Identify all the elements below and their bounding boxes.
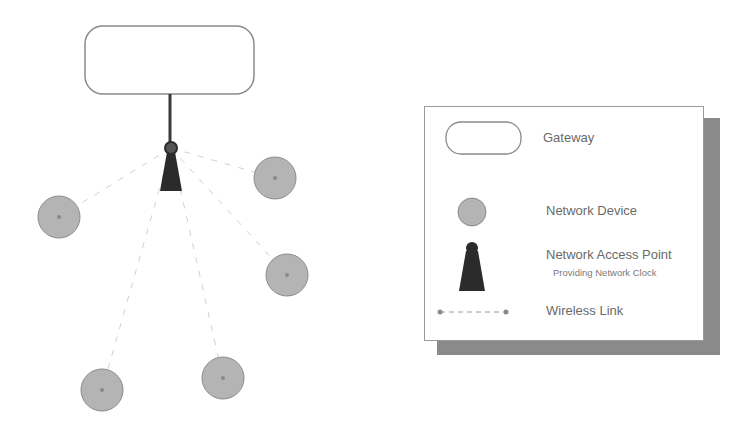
network-device-center — [221, 376, 225, 380]
legend-label-wireless-link: Wireless Link — [546, 303, 623, 318]
gateway-legend-icon — [446, 122, 521, 154]
access-point-icon — [160, 152, 182, 191]
wireless-link-endpoint-icon — [438, 310, 443, 315]
network-device-legend-icon — [458, 198, 486, 226]
network-device-center — [285, 273, 289, 277]
network-device-center — [273, 176, 277, 180]
access-point-legend-head — [466, 242, 478, 254]
legend-label-access-point: Network Access Point — [546, 247, 672, 262]
legend: Gateway Network Device Network Access Po… — [424, 106, 704, 341]
access-point-legend-icon — [459, 251, 485, 291]
legend-label-gateway: Gateway — [543, 130, 594, 145]
wireless-link-endpoint-icon — [504, 310, 509, 315]
wireless-link — [102, 148, 171, 390]
access-point-head — [165, 142, 177, 154]
network-devices — [38, 157, 308, 411]
network-device-center — [100, 388, 104, 392]
gateway-node — [85, 26, 254, 94]
network-device-center — [57, 215, 61, 219]
legend-label-network-device: Network Device — [546, 203, 637, 218]
legend-sublabel-access-point: Providing Network Clock — [553, 267, 656, 278]
